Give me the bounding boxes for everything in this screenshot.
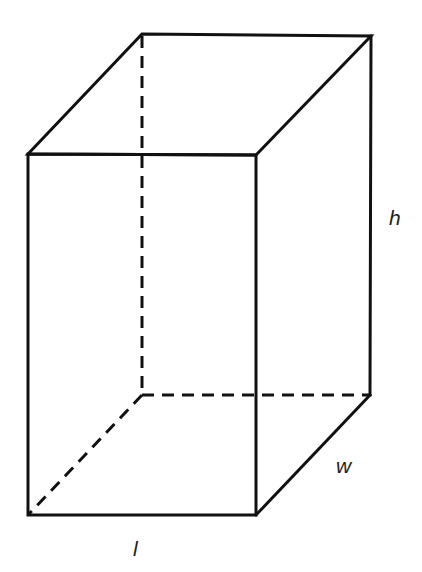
prism-diagram: h w l (0, 0, 422, 572)
height-label: h (389, 206, 401, 229)
length-label: l (133, 537, 139, 560)
hidden-edge-bottom-left-depth (28, 395, 142, 515)
edge-back-right-vertical (370, 36, 371, 395)
front-face (28, 154, 256, 515)
width-label: w (336, 454, 353, 477)
top-face (28, 34, 371, 155)
edge-bottom-right-depth (256, 395, 370, 515)
